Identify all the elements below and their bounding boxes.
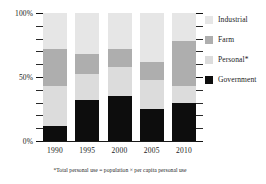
x-axis-label-1990: 1990 — [43, 146, 67, 155]
x-axis-label-2010: 2010 — [172, 146, 196, 155]
bar-segment-government — [172, 103, 196, 141]
legend-item-farm: Farm — [205, 31, 265, 48]
legend-swatch-industrial — [205, 16, 213, 24]
tick-left-50 — [36, 77, 43, 78]
bars-layer — [43, 13, 196, 141]
bar-segment-farm — [43, 49, 67, 86]
x-axis-line — [43, 141, 196, 142]
x-axis-label-2000: 2000 — [108, 146, 132, 155]
stacked-bar-chart: 100% 50% 0% — [0, 0, 266, 184]
bar-segment-government — [43, 126, 67, 141]
legend-swatch-government — [205, 76, 213, 84]
tick-left-80 — [36, 39, 43, 40]
legend-label-personal: Personal* — [218, 55, 248, 64]
bar-group-1995 — [75, 13, 99, 141]
plot-area — [43, 13, 196, 141]
bar-segment-industrial — [43, 13, 67, 49]
tick-left-30 — [36, 103, 43, 104]
bar-segment-industrial — [172, 13, 196, 41]
x-axis-label-2005: 2005 — [140, 146, 164, 155]
tick-right-10 — [196, 128, 203, 129]
tick-right-80 — [196, 39, 203, 40]
legend-item-industrial: Industrial — [205, 11, 265, 28]
bar-group-2005 — [140, 13, 164, 141]
legend-item-personal: Personal* — [205, 51, 265, 68]
bar-segment-farm — [108, 49, 132, 67]
bar-segment-personal — [140, 80, 164, 109]
bar-segment-farm — [172, 41, 196, 86]
legend-swatch-farm — [205, 36, 213, 44]
tick-left-40 — [36, 90, 43, 91]
tick-right-40 — [196, 90, 203, 91]
y-axis-label-50: 50% — [19, 73, 33, 82]
y-axis-label-100: 100% — [15, 9, 33, 18]
legend-label-farm: Farm — [218, 35, 234, 44]
bar-segment-industrial — [140, 13, 164, 62]
y-axis-label-0: 0% — [23, 137, 33, 146]
tick-left-70 — [36, 51, 43, 52]
bar-segment-government — [140, 109, 164, 141]
tick-left-100 — [36, 13, 43, 14]
bar-segment-personal — [75, 74, 99, 100]
bar-group-1990 — [43, 13, 67, 141]
legend-swatch-personal — [205, 56, 213, 64]
tick-right-50 — [196, 77, 203, 78]
legend-item-government: Government — [205, 71, 265, 88]
legend-label-industrial: Industrial — [218, 15, 248, 24]
tick-right-70 — [196, 51, 203, 52]
chart-legend: Industrial Farm Personal* Government — [205, 11, 265, 91]
bar-segment-personal — [43, 86, 67, 126]
tick-right-20 — [196, 115, 203, 116]
tick-left-20 — [36, 115, 43, 116]
tick-right-90 — [196, 26, 203, 27]
bar-segment-industrial — [75, 13, 99, 54]
bar-segment-personal — [172, 86, 196, 103]
bar-segment-personal — [108, 67, 132, 96]
x-axis-label-1995: 1995 — [75, 146, 99, 155]
bar-segment-farm — [75, 54, 99, 74]
legend-label-government: Government — [218, 75, 257, 84]
tick-right-60 — [196, 64, 203, 65]
tick-right-0 — [196, 141, 203, 142]
chart-footnote: *Total personal use = population × per c… — [0, 167, 240, 173]
tick-left-10 — [36, 128, 43, 129]
bar-segment-farm — [140, 62, 164, 80]
bar-segment-industrial — [108, 13, 132, 49]
tick-right-100 — [196, 13, 203, 14]
bar-segment-government — [108, 96, 132, 141]
bar-group-2010 — [172, 13, 196, 141]
tick-left-60 — [36, 64, 43, 65]
tick-left-0 — [36, 141, 43, 142]
x-axis-labels: 1990 1995 2000 2005 2010 — [43, 146, 196, 155]
bar-segment-government — [75, 100, 99, 141]
tick-left-90 — [36, 26, 43, 27]
bar-group-2000 — [108, 13, 132, 141]
tick-right-30 — [196, 103, 203, 104]
